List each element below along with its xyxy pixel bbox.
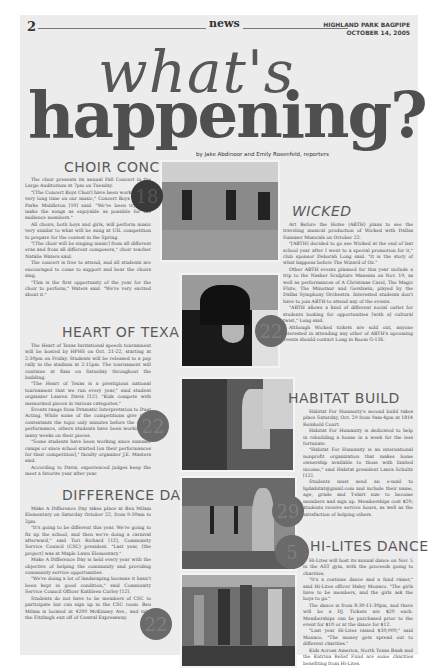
difference-day-heading: DIFFERENCE DAY bbox=[62, 487, 189, 503]
byline: by Jake Abdinoor and Emily Rosenfeld, re… bbox=[196, 151, 329, 157]
publication-name: HIGHLAND PARK BAGPIPE bbox=[323, 21, 410, 29]
section-label: news bbox=[206, 17, 243, 30]
header-rule bbox=[38, 28, 348, 29]
hilites-body: Hi-Lites will host its annual dance on N… bbox=[303, 558, 413, 667]
headline-happening: happening? bbox=[28, 83, 426, 147]
heart-of-texas-date-badge: 22 bbox=[137, 410, 169, 442]
landscaping-volunteers-photo bbox=[180, 573, 297, 668]
newspaper-page: 2 news HIGHLAND PARK BAGPIPE OCTOBER 14,… bbox=[20, 15, 418, 655]
heart-of-texas-heading: HEART OF TEXAS bbox=[62, 324, 189, 340]
heart-of-texas-body: The Heart of Texas Invitational speech t… bbox=[25, 343, 151, 478]
wicked-date-badge: 22 bbox=[255, 315, 287, 347]
difference-day-date-badge: 22 bbox=[140, 608, 172, 640]
habitat-heading: HABITAT BUILD bbox=[288, 390, 400, 406]
wicked-heading: WICKED bbox=[292, 203, 352, 219]
difference-day-body: Make A Difference Day takes place at Ben… bbox=[25, 506, 151, 621]
choir-rehearsal-photo bbox=[160, 160, 280, 262]
habitat-body: Habitat For Humanity's second build take… bbox=[303, 409, 413, 518]
hilites-date-badge: 5 bbox=[275, 535, 309, 569]
hilites-heading: HI-LITES DANCE bbox=[310, 538, 429, 554]
issue-date: OCTOBER 14, 2005 bbox=[323, 29, 410, 37]
publication-info: HIGHLAND PARK BAGPIPE OCTOBER 14, 2005 bbox=[323, 21, 410, 37]
habitat-date-badge: 29 bbox=[272, 495, 304, 527]
page-number: 2 bbox=[27, 19, 36, 34]
wicked-body: Art Before the Hotse (ABTH) plans to see… bbox=[283, 222, 413, 344]
speech-student-photo bbox=[180, 377, 295, 472]
choir-date-badge: 18 bbox=[131, 180, 163, 212]
